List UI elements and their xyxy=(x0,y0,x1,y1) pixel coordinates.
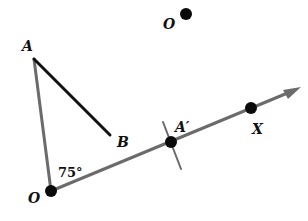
point-o-new xyxy=(180,8,192,20)
label-o-new: O xyxy=(163,16,176,32)
segment-ab xyxy=(34,59,110,135)
label-b: B xyxy=(116,134,129,150)
point-o xyxy=(45,185,57,197)
label-angle: 75° xyxy=(58,165,83,180)
label-a: A xyxy=(20,38,33,54)
label-a-prime: A′ xyxy=(173,119,190,135)
point-x xyxy=(245,102,257,114)
point-a-prime xyxy=(165,136,177,148)
geometry-diagram: A B O 75° A′ X O xyxy=(0,0,308,221)
arrowhead-icon xyxy=(283,87,301,99)
label-o: O xyxy=(28,190,41,206)
label-x: X xyxy=(251,121,264,137)
ray-oa xyxy=(34,59,51,191)
